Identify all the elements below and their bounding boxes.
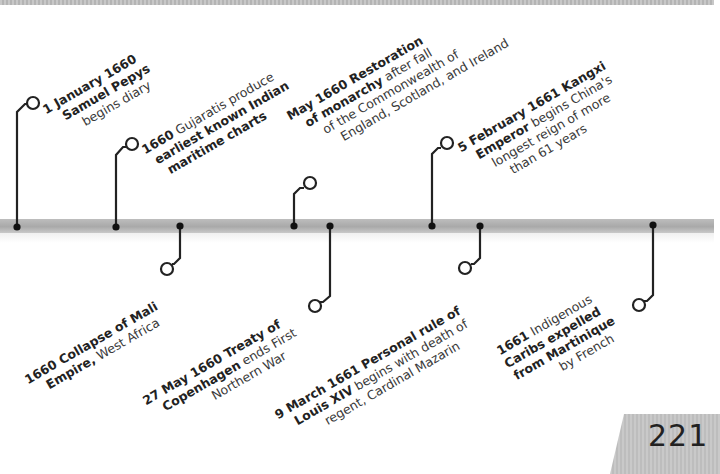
timeline-dot — [13, 223, 20, 230]
timeline-dot — [428, 222, 435, 229]
connector-mali — [161, 226, 180, 275]
timeline-dot — [176, 222, 183, 229]
connector-copenhagen — [309, 226, 330, 312]
timeline-dot — [112, 223, 119, 230]
timeline-dot — [290, 222, 297, 229]
connector-caribs — [633, 225, 653, 311]
timeline-dot — [326, 222, 333, 229]
timeline-dot — [649, 221, 656, 228]
page-number: 221 — [648, 418, 708, 453]
connector-louis — [459, 226, 480, 274]
connector-restoration — [294, 177, 316, 226]
connector-pepys — [17, 97, 39, 227]
connector-gujaratis — [116, 138, 138, 227]
timeline-dot — [476, 222, 483, 229]
connector-kangxi — [432, 137, 453, 226]
